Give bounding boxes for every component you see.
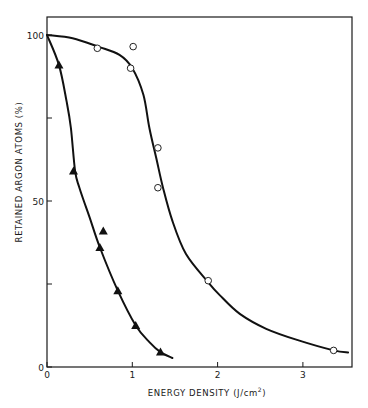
circle-marker [127, 65, 134, 72]
x-tick-label: 0 [44, 370, 50, 380]
circle-marker [330, 347, 337, 354]
circle-marker [155, 184, 162, 191]
circle-marker [205, 277, 212, 284]
y-axis-title: RETAINED ARGON ATOMS (%) [14, 102, 24, 243]
x-tick-label: 3 [300, 370, 306, 380]
circle-marker [94, 45, 101, 52]
circle-marker [130, 43, 137, 50]
circle-marker [155, 145, 162, 152]
y-tick-label: 0 [38, 363, 44, 373]
chart-canvas: 0123050100 ENERGY DENSITY (J/cm2) RETAIN… [0, 0, 368, 408]
x-tick-label: 1 [129, 370, 135, 380]
x-axis-title: ENERGY DENSITY (J/cm2) [148, 386, 266, 398]
y-tick-label: 100 [27, 31, 44, 41]
y-tick-label: 50 [33, 197, 45, 207]
background [0, 0, 368, 408]
x-tick-label: 2 [215, 370, 221, 380]
